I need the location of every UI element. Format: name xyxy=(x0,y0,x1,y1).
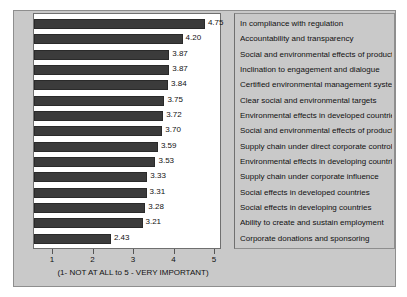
category-label: Ability to create and sustain employment xyxy=(240,218,392,228)
category-label: Environmental effects in developed count… xyxy=(240,111,392,121)
category-label: Social and environmental effects of prod… xyxy=(240,126,392,136)
bar xyxy=(34,142,158,152)
bar xyxy=(34,80,168,90)
bar-value-label: 2.43 xyxy=(114,232,130,244)
bar-value-label: 3.72 xyxy=(166,109,182,121)
category-label: Social and environmental effects of prod… xyxy=(240,50,392,60)
bar xyxy=(34,172,147,182)
bar-value-label: 3.84 xyxy=(171,78,187,90)
bar-value-label: 4.20 xyxy=(186,32,202,44)
x-axis-caption: (1- NOT AT ALL to 5 - VERY IMPORTANT) xyxy=(33,268,233,277)
bar xyxy=(34,111,163,121)
bar xyxy=(34,203,145,213)
bar-row: 4.75 xyxy=(34,19,220,29)
bar-value-label: 3.87 xyxy=(172,48,188,60)
bar xyxy=(34,50,169,60)
category-label: Supply chain under direct corporate cont… xyxy=(240,142,392,152)
x-axis-tick-label: 5 xyxy=(212,254,216,265)
bar-value-label: 3.31 xyxy=(150,186,166,198)
bar-value-label: 3.28 xyxy=(148,201,164,213)
bar-value-label: 3.33 xyxy=(150,170,166,182)
bar-row: 3.75 xyxy=(34,96,220,106)
bars-layer: 4.754.203.873.873.843.753.723.703.593.53… xyxy=(34,14,220,248)
bar-row: 3.87 xyxy=(34,50,220,60)
x-axis-tick-label: 2 xyxy=(90,254,94,265)
category-label-panel: In compliance with regulationAccountabil… xyxy=(234,13,395,249)
bar-row: 3.59 xyxy=(34,142,220,152)
chart-frame: 4.754.203.873.873.843.753.723.703.593.53… xyxy=(13,10,396,287)
category-label: In compliance with regulation xyxy=(240,19,392,29)
x-axis-tick-label: 3 xyxy=(131,254,135,265)
category-label: Social effects in developing countries xyxy=(240,203,392,213)
bar-value-label: 3.70 xyxy=(165,124,181,136)
bar xyxy=(34,19,205,29)
bar-value-label: 3.87 xyxy=(172,63,188,75)
bar-row: 3.84 xyxy=(34,80,220,90)
bar xyxy=(34,34,183,44)
bar-value-label: 3.59 xyxy=(161,140,177,152)
bar-row: 2.43 xyxy=(34,234,220,244)
bar xyxy=(34,126,162,136)
bar xyxy=(34,234,111,244)
x-axis-tick-label: 4 xyxy=(171,254,175,265)
category-label: Inclination to engagement and dialogue xyxy=(240,65,392,75)
bar-row: 3.21 xyxy=(34,218,220,228)
bar-value-label: 3.75 xyxy=(167,94,183,106)
bar-value-label: 4.75 xyxy=(208,17,224,29)
bar-row: 4.20 xyxy=(34,34,220,44)
bar-row: 3.53 xyxy=(34,157,220,167)
bar-row: 3.70 xyxy=(34,126,220,136)
bar-value-label: 3.21 xyxy=(146,216,162,228)
bar-row: 3.28 xyxy=(34,203,220,213)
bar xyxy=(34,65,169,75)
bar-row: 3.72 xyxy=(34,111,220,121)
category-label: Environmental effects in developing coun… xyxy=(240,157,392,167)
category-label: Certified environmental management syste… xyxy=(240,80,392,90)
bar xyxy=(34,218,143,228)
category-label: Accountability and transparency xyxy=(240,34,392,44)
category-label: Corporate donations and sponsoring xyxy=(240,234,392,244)
bar-row: 3.87 xyxy=(34,65,220,75)
category-label: Supply chain under corporate influence xyxy=(240,172,392,182)
plot-area: 4.754.203.873.873.843.753.723.703.593.53… xyxy=(33,13,221,249)
bar xyxy=(34,96,164,106)
bar-value-label: 3.53 xyxy=(158,155,174,167)
bar xyxy=(34,188,147,198)
category-label: Clear social and environmental targets xyxy=(240,96,392,106)
category-label: Social effects in developed countries xyxy=(240,188,392,198)
bar xyxy=(34,157,155,167)
bar-row: 3.33 xyxy=(34,172,220,182)
x-axis-tick-label: 1 xyxy=(50,254,54,265)
bar-row: 3.31 xyxy=(34,188,220,198)
x-axis: 12345 xyxy=(33,249,221,269)
